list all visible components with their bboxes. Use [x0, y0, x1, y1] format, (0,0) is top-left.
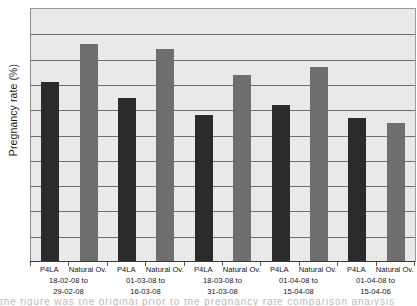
x-label-series-row: P4LANatural Ov. [337, 265, 414, 275]
x-axis-tick [222, 262, 223, 266]
x-label-series-row: P4LANatural Ov. [184, 265, 261, 275]
x-label-series-name: Natural Ov. [223, 265, 262, 275]
x-label-series-name: Natural Ov. [69, 265, 108, 275]
x-axis-tick [260, 262, 261, 266]
caption-bleed-text: the figure was the original prior to the… [0, 299, 417, 306]
y-axis-title: Pregnancy rate (%) [7, 35, 19, 185]
x-axis-tick [376, 262, 377, 266]
x-label-date-range-line2: 29-02-08 [30, 287, 107, 298]
y-axis-title-container: Pregnancy rate (%) [0, 0, 24, 262]
x-label-series-name: Natural Ov. [146, 265, 185, 275]
caption-bleed: the figure was the original prior to the… [0, 299, 417, 306]
x-axis-tick [414, 262, 415, 266]
x-axis-tick [107, 262, 108, 266]
x-label-series-row: P4LANatural Ov. [107, 265, 184, 275]
x-label-date-range-line2: 16-03-08 [107, 287, 184, 298]
x-axis-tick [337, 262, 338, 266]
x-label-series-name: Natural Ov. [299, 265, 338, 275]
x-label-date-range-line1: 01-04-08 to [260, 276, 337, 287]
x-label-date-range-line1: 01-03-08 to [107, 276, 184, 287]
x-label-series-name: P4LA [30, 265, 69, 275]
x-label-date-range-line2: 15-04-08 [260, 287, 337, 298]
x-axis-tick [299, 262, 300, 266]
bar-p4la-group0 [41, 82, 59, 262]
x-label-series-row: P4LANatural Ov. [30, 265, 107, 275]
x-label-date-range-line1: 18-02-08 to [30, 276, 107, 287]
bar-natural-ov-group1 [156, 49, 174, 262]
x-label-date-range-line1: 01-04-08 to [337, 276, 414, 287]
bar-p4la-group4 [348, 118, 366, 262]
x-label-series-name: P4LA [184, 265, 223, 275]
bar-natural-ov-group3 [310, 67, 328, 262]
chart-figure: Pregnancy rate (%) P4LANatural Ov.18-02-… [0, 0, 417, 306]
bar-natural-ov-group0 [80, 44, 98, 262]
x-axis-tick [145, 262, 146, 266]
x-axis-tick [184, 262, 185, 266]
bar-p4la-group1 [118, 98, 136, 262]
x-axis-tick [68, 262, 69, 266]
x-label-series-name: P4LA [107, 265, 146, 275]
x-label-series-row: P4LANatural Ov. [260, 265, 337, 275]
plot-area [30, 8, 416, 262]
x-label-series-name: Natural Ov. [376, 265, 415, 275]
x-label-date-range-line1: 18-03-08 to [184, 276, 261, 287]
x-axis-tick [30, 262, 31, 266]
bar-natural-ov-group2 [233, 75, 251, 262]
x-label-date-range-line2: 31-03-08 [184, 287, 261, 298]
x-label-date-range-line2: 15-04-06 [337, 287, 414, 298]
x-label-series-name: P4LA [260, 265, 299, 275]
bars-group [31, 9, 415, 262]
bar-p4la-group2 [195, 115, 213, 262]
bar-p4la-group3 [272, 105, 290, 262]
bar-natural-ov-group4 [387, 123, 405, 262]
x-label-series-name: P4LA [337, 265, 376, 275]
